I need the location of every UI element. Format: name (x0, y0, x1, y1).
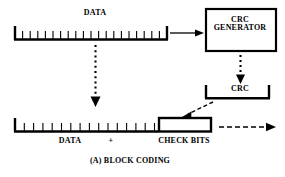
label-data-top: DATA (0, 9, 190, 17)
label-crc-generator-line2: GENERATOR (204, 24, 276, 32)
arrow-crc-generator-to-crc (236, 55, 245, 84)
label-crc-generator: CRC GENERATOR (204, 16, 276, 33)
arrow-codeword-output (219, 123, 276, 131)
bottom-data-frame (14, 118, 158, 132)
top-data-ticks (23, 31, 160, 39)
arrow-data-to-crc-generator (170, 29, 204, 36)
label-plus-operator: + (104, 137, 118, 145)
top-data-frame (14, 26, 168, 40)
check-bits-block (159, 118, 211, 132)
block-coding-figure: DATA CRC GENERATOR CRC DATA + CHECK BITS… (0, 0, 285, 177)
bottom-data-ticks (24, 123, 154, 131)
label-crc: CRC (204, 85, 276, 93)
label-check-bits: CHECK BITS (144, 137, 224, 145)
arrow-data-to-codeword (91, 45, 101, 107)
label-data-bottom: DATA (40, 137, 100, 145)
figure-caption: (A) BLOCK CODING (35, 157, 225, 165)
arrow-crc-to-check-bits (182, 102, 214, 118)
